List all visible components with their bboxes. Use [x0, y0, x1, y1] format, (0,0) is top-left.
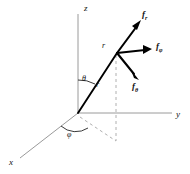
- f-theta-subscript: θ: [135, 87, 138, 93]
- f-phi-label: fφ: [156, 42, 163, 53]
- y-axis-label: y: [176, 110, 180, 119]
- f-radial-label: fr: [142, 10, 147, 21]
- f-phi-subscript: φ: [159, 47, 163, 53]
- position-vector-mid-label: r: [96, 81, 99, 89]
- xy-plane-projection-dashed-line: [80, 117, 116, 141]
- phi-angle-label: φ: [67, 131, 71, 139]
- f-radial-vector-line: [117, 26, 137, 53]
- z-axis-label: z: [84, 4, 88, 13]
- spherical-coordinates-figure: z y x θ φ r r fr fφ fθ: [0, 0, 190, 174]
- phi-angle-arc: [61, 126, 88, 132]
- f-theta-label: fθ: [132, 82, 138, 93]
- theta-angle-arc: [78, 80, 95, 84]
- f-theta-arrowhead: [131, 70, 139, 80]
- x-axis-label: x: [9, 158, 13, 167]
- f-radial-arrowhead: [132, 20, 141, 30]
- f-radial-subscript: r: [145, 15, 147, 21]
- f-phi-vector-line: [117, 50, 145, 53]
- figure-canvas: [0, 0, 190, 174]
- theta-angle-label: θ: [82, 75, 86, 83]
- position-vector-tip-label: r: [102, 42, 105, 50]
- f-phi-arrowhead: [143, 45, 152, 54]
